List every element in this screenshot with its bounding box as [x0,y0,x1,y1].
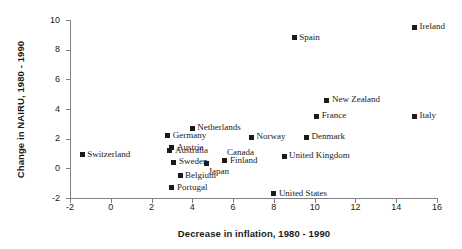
x-tick-label: 2 [137,203,167,212]
x-axis-line [70,198,438,199]
data-point [282,154,287,159]
data-point [171,160,176,165]
data-point-label: Australia [175,146,208,155]
data-point-label: Finland [230,156,258,165]
data-point-label: Denmark [312,132,346,141]
x-tick-label: 6 [218,203,248,212]
y-tick-label: 6 [34,75,60,84]
y-tick-label: 2 [34,134,60,143]
plot-area [70,20,437,198]
scatter-chart: -20246810 -20246810121416 Decrease in in… [0,0,462,249]
x-tick-label: 8 [259,203,289,212]
x-axis-title: Decrease in inflation, 1980 - 1990 [70,228,438,239]
data-point [412,114,417,119]
y-tick-label: 4 [34,105,60,114]
data-point-label: Netherlands [197,123,240,132]
data-point-label: Portugal [177,183,208,192]
data-point-label: Norway [256,132,285,141]
data-point [165,133,170,138]
data-point [169,185,174,190]
data-point-label: Switzerland [87,150,130,159]
y-tick-label: 0 [34,164,60,173]
x-tick-label: 0 [96,203,126,212]
y-axis-title: Change in NAIRU, 1980 - 1990 [15,10,26,210]
x-tick-label: 4 [177,203,207,212]
data-point [249,135,254,140]
data-point [314,114,319,119]
data-point [292,35,297,40]
data-point-label: Belgium [185,171,216,180]
data-point [167,148,172,153]
y-tick-label: 8 [34,45,60,54]
data-point [222,158,227,163]
x-tick-label: -2 [55,203,85,212]
data-point-label: Spain [299,33,320,42]
y-tick-label: -2 [34,194,60,203]
x-tick-label: 14 [381,203,411,212]
data-point [324,98,329,103]
data-point [190,126,195,131]
x-tick-label: 12 [340,203,370,212]
data-point-label: United States [279,189,327,198]
data-point-label: United Kingdom [289,151,350,160]
data-point [304,135,309,140]
data-point-label: France [322,111,347,120]
data-point [80,152,85,157]
data-point-label: New Zealand [332,95,380,104]
data-point [271,191,276,196]
x-tick-label: 16 [422,203,452,212]
y-tick-label: 10 [34,16,60,25]
data-point [178,173,183,178]
data-point [412,25,417,30]
data-point-label: Ireland [420,22,445,31]
x-tick-label: 10 [300,203,330,212]
data-point-label: Italy [420,111,437,120]
